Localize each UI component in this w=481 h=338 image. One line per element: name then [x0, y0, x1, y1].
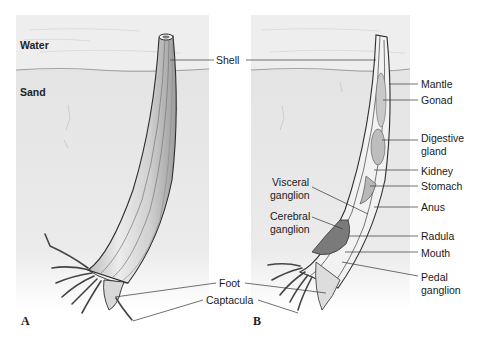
gonad-label: Gonad — [421, 94, 453, 106]
sand-label: Sand — [20, 86, 46, 98]
digestive-gland-organ — [371, 129, 385, 165]
shell-label: Shell — [216, 54, 239, 66]
pedal-ganglion-label-line2: ganglion — [421, 284, 461, 296]
visceral-ganglion-label-line2: ganglion — [270, 189, 310, 201]
radula-label: Radula — [421, 230, 454, 242]
panel-letter-b: B — [253, 314, 261, 329]
anus-label: Anus — [421, 201, 445, 213]
kidney-label: Kidney — [421, 165, 453, 177]
pedal-ganglion-label-line1: Pedal — [421, 271, 448, 283]
diagram-canvas: Water Sand Shell Foot Captacula Mantle G… — [0, 0, 481, 338]
mantle-label: Mantle — [421, 78, 453, 90]
foot-label: Foot — [219, 277, 240, 289]
water-label: Water — [20, 39, 49, 51]
cerebral-ganglion-label-line1: Cerebral — [270, 210, 310, 222]
digestive-gland-label-line1: Digestive — [421, 132, 464, 144]
captacula-label: Captacula — [206, 294, 253, 306]
panel-letter-a: A — [21, 314, 30, 329]
digestive-gland-label-line2: gland — [421, 145, 447, 157]
mouth-label: Mouth — [421, 247, 450, 259]
cerebral-ganglion-label-line2: ganglion — [270, 223, 310, 235]
stomach-label: Stomach — [421, 180, 462, 192]
visceral-ganglion-label-line1: Visceral — [272, 176, 309, 188]
diagram-illustration — [0, 0, 481, 338]
